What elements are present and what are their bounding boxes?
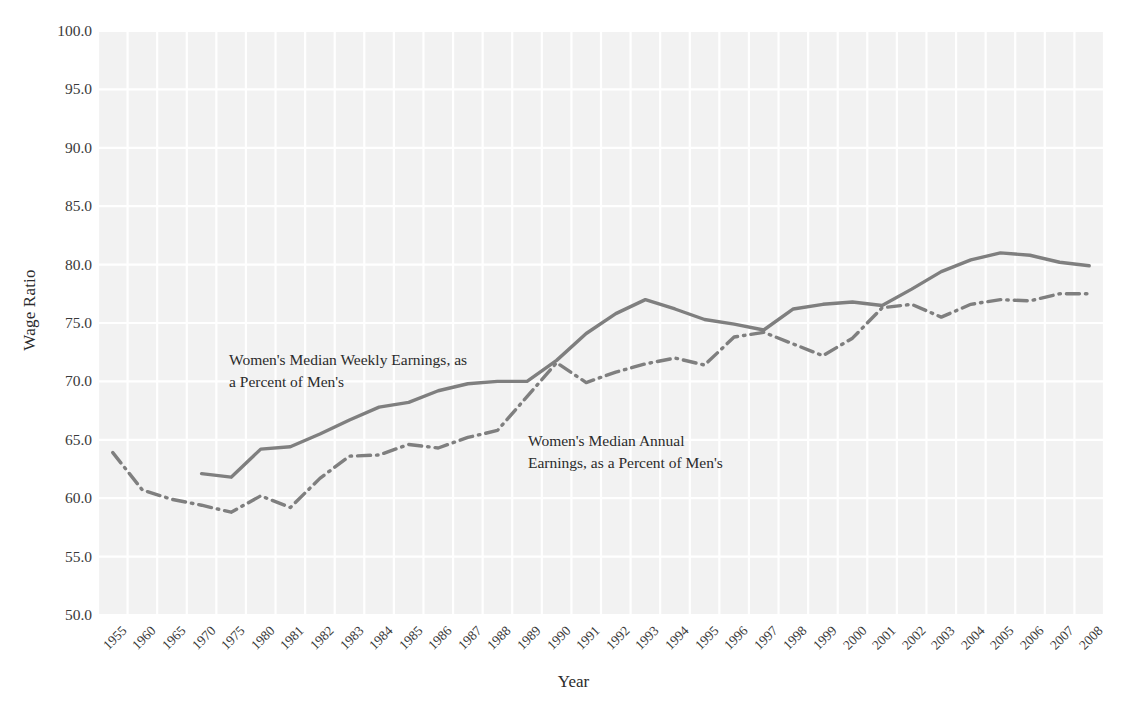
x-axis-title: Year	[0, 672, 1147, 692]
series-annotation-annual: Women's Median Annual Earnings, as a Per…	[528, 430, 723, 474]
plot-area	[0, 0, 1147, 716]
series-annotation-weekly: Women's Median Weekly Earnings, as a Per…	[229, 349, 467, 393]
wage-ratio-chart: Wage Ratio 100.095.090.085.080.075.070.0…	[0, 0, 1147, 716]
